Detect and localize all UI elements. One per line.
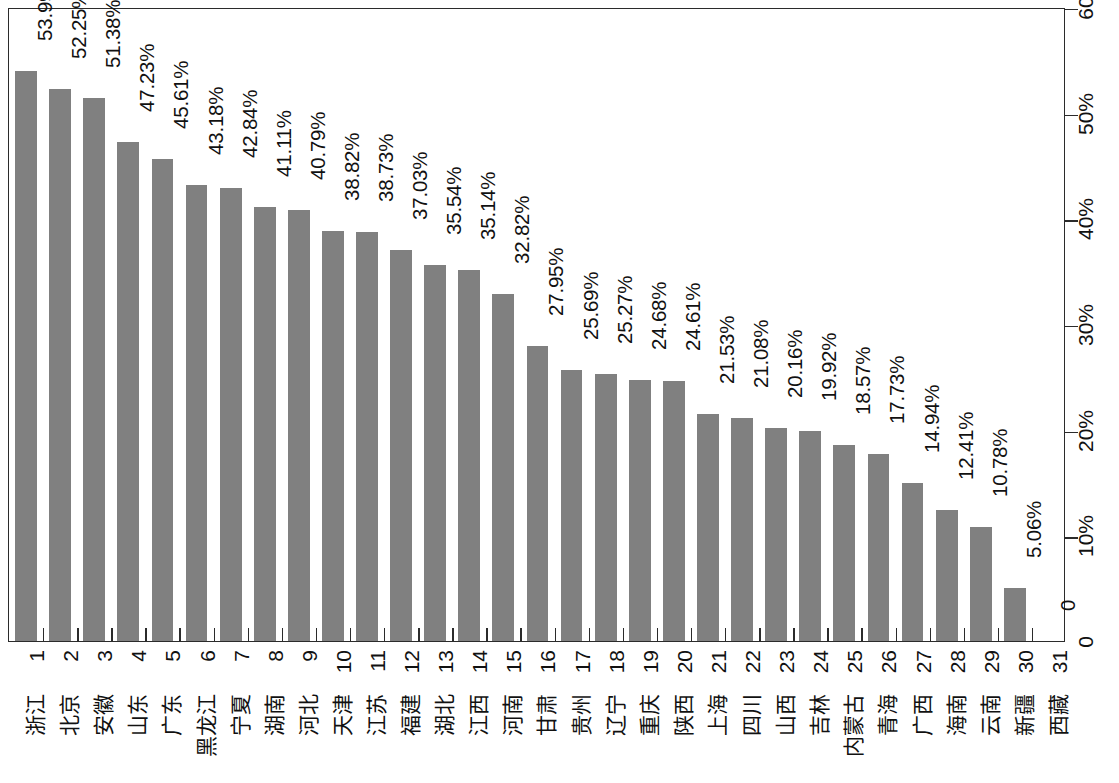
bar-slot: 0 bbox=[1032, 9, 1066, 641]
bar[interactable] bbox=[902, 483, 924, 641]
y-axis-label: 50% bbox=[1074, 93, 1098, 135]
bar-slot: 37.03% bbox=[384, 9, 418, 641]
bar-slot: 38.73% bbox=[350, 9, 384, 641]
bar[interactable] bbox=[731, 418, 753, 641]
bar-slot: 10.78% bbox=[964, 9, 998, 641]
bar[interactable] bbox=[186, 185, 208, 641]
bar[interactable] bbox=[424, 265, 446, 641]
category-label-slot: 28海南 bbox=[929, 648, 963, 783]
category-label-slot: 12福建 bbox=[383, 648, 417, 783]
bar[interactable] bbox=[322, 231, 344, 641]
category-label-slot: 22四川 bbox=[724, 648, 758, 783]
bar-slot: 5.06% bbox=[998, 9, 1032, 641]
x-axis-tick bbox=[725, 628, 726, 642]
bar[interactable] bbox=[15, 71, 37, 641]
category-label-slot: 5广东 bbox=[144, 648, 178, 783]
category-label-slot: 1浙江 bbox=[8, 648, 42, 783]
bar[interactable] bbox=[83, 98, 105, 641]
category-label-slot: 7宁夏 bbox=[213, 648, 247, 783]
bar-slot: 17.73% bbox=[861, 9, 895, 641]
category-label-slot: 20陕西 bbox=[656, 648, 690, 783]
x-axis-tick bbox=[248, 628, 249, 642]
category-label-slot: 3安徽 bbox=[76, 648, 110, 783]
category-label-slot: 6黑龙江 bbox=[178, 648, 212, 783]
bars-layer: 53.99%52.25%51.38%47.23%45.61%43.18%42.8… bbox=[9, 9, 1064, 641]
x-axis-tick bbox=[418, 628, 419, 642]
bar[interactable] bbox=[492, 294, 514, 641]
bar-slot: 52.25% bbox=[43, 9, 77, 641]
x-axis-tick bbox=[77, 628, 78, 642]
bar[interactable] bbox=[356, 232, 378, 641]
category-label-slot: 30新疆 bbox=[997, 648, 1031, 783]
bar[interactable] bbox=[117, 142, 139, 641]
x-axis-tick bbox=[998, 628, 999, 642]
bar[interactable] bbox=[970, 527, 992, 641]
category-label-slot: 25内蒙古 bbox=[826, 648, 860, 783]
bar-slot: 51.38% bbox=[77, 9, 111, 641]
category-label-slot: 13湖北 bbox=[417, 648, 451, 783]
bar[interactable] bbox=[220, 188, 242, 641]
y-axis-label: 60 bbox=[1074, 0, 1098, 20]
category-label-slot: 19重庆 bbox=[622, 648, 656, 783]
chart-page: 53.99%52.25%51.38%47.23%45.61%43.18%42.8… bbox=[0, 0, 1119, 783]
bar-slot: 25.27% bbox=[589, 9, 623, 641]
bar[interactable] bbox=[152, 159, 174, 641]
bar[interactable] bbox=[833, 445, 855, 641]
bar[interactable] bbox=[765, 428, 787, 641]
bar-slot: 14.94% bbox=[896, 9, 930, 641]
x-axis-tick bbox=[214, 628, 215, 642]
bar[interactable] bbox=[561, 370, 583, 641]
category-label-slot: 9河北 bbox=[281, 648, 315, 783]
bar[interactable] bbox=[868, 454, 890, 641]
bar[interactable] bbox=[595, 374, 617, 641]
bar-slot: 24.68% bbox=[623, 9, 657, 641]
x-axis-tick bbox=[691, 628, 692, 642]
bar-slot: 35.54% bbox=[418, 9, 452, 641]
x-axis-tick bbox=[43, 628, 44, 642]
x-axis-tick bbox=[555, 628, 556, 642]
bar-slot: 21.08% bbox=[725, 9, 759, 641]
x-axis-tick bbox=[350, 628, 351, 642]
bar[interactable] bbox=[458, 270, 480, 641]
bar[interactable] bbox=[1004, 588, 1026, 641]
x-axis-tick bbox=[930, 628, 931, 642]
bar[interactable] bbox=[629, 380, 651, 641]
category-label-slot: 24吉林 bbox=[792, 648, 826, 783]
bar[interactable] bbox=[936, 510, 958, 641]
y-axis-label: 30% bbox=[1074, 304, 1098, 346]
bar-slot: 41.11% bbox=[248, 9, 282, 641]
bar-slot: 24.61% bbox=[657, 9, 691, 641]
category-label-slot: 8湖南 bbox=[247, 648, 281, 783]
bar-slot: 53.99% bbox=[9, 9, 43, 641]
bar[interactable] bbox=[49, 89, 71, 641]
x-axis-tick bbox=[384, 628, 385, 642]
category-label-slot: 2北京 bbox=[42, 648, 76, 783]
bar[interactable] bbox=[288, 210, 310, 641]
category-label-slot: 11江苏 bbox=[349, 648, 383, 783]
bar-slot: 32.82% bbox=[486, 9, 520, 641]
bar[interactable] bbox=[254, 207, 276, 641]
bar-slot: 45.61% bbox=[145, 9, 179, 641]
category-label-slot: 21上海 bbox=[690, 648, 724, 783]
bar-slot: 20.16% bbox=[759, 9, 793, 641]
x-axis-tick bbox=[964, 628, 965, 642]
bar-slot: 19.92% bbox=[793, 9, 827, 641]
x-axis-tick bbox=[589, 628, 590, 642]
bar[interactable] bbox=[697, 414, 719, 642]
bar[interactable] bbox=[527, 346, 549, 641]
bar-slot: 12.41% bbox=[930, 9, 964, 641]
x-axis-tick bbox=[520, 628, 521, 642]
x-axis-tick bbox=[111, 628, 112, 642]
category-label-slot: 10天津 bbox=[315, 648, 349, 783]
x-axis-tick bbox=[896, 628, 897, 642]
x-axis-tick bbox=[316, 628, 317, 642]
bar[interactable] bbox=[799, 431, 821, 641]
x-axis-tick bbox=[452, 628, 453, 642]
category-label-slot: 26青海 bbox=[860, 648, 894, 783]
bar-slot: 27.95% bbox=[520, 9, 554, 641]
bar[interactable] bbox=[390, 250, 412, 641]
category-label-slot: 16甘肃 bbox=[519, 648, 553, 783]
bar[interactable] bbox=[663, 381, 685, 641]
bar-value-label: 0 bbox=[1056, 600, 1080, 611]
bar-slot: 38.82% bbox=[316, 9, 350, 641]
